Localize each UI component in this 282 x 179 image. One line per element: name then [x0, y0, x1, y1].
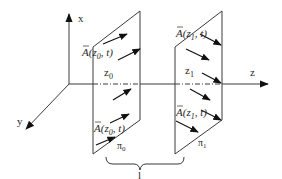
wave-propagation-diagram: x y z A(z0, t) z0 A(z0, t) π0 — [0, 0, 282, 179]
vector-label-pi1-bottom: A(z1, t) — [175, 106, 207, 121]
arrow-icon — [202, 73, 221, 83]
plane-label-pi0: π0 — [117, 140, 126, 153]
coordinate-axes — [26, 14, 268, 129]
arrow-icon — [118, 49, 140, 60]
distance-label: l — [138, 169, 141, 179]
plane-label-pi1: π1 — [198, 137, 207, 150]
arrow-icon — [113, 89, 131, 100]
plane-pi1: A(z1, t) z1 A(z1, t) π1 — [175, 11, 222, 154]
vector-label-pi1-top: A(z1, t) — [175, 27, 207, 42]
vector-label-pi0-top: A(z0, t) — [81, 46, 113, 61]
x-axis-label: x — [78, 12, 84, 24]
y-axis-label: y — [17, 115, 23, 127]
position-label-z1: z1 — [185, 64, 194, 79]
y-axis — [26, 84, 69, 129]
arrow-icon — [103, 34, 127, 44]
plane-pi0: A(z0, t) z0 A(z0, t) π0 — [81, 11, 140, 154]
arrow-icon — [190, 89, 210, 100]
arrow-icon — [96, 137, 115, 145]
arrow-icon — [176, 121, 198, 132]
arrow-icon — [186, 49, 209, 60]
position-label-z0: z0 — [104, 66, 113, 81]
z-axis-label: z — [250, 66, 255, 78]
distance-brace — [106, 157, 184, 170]
